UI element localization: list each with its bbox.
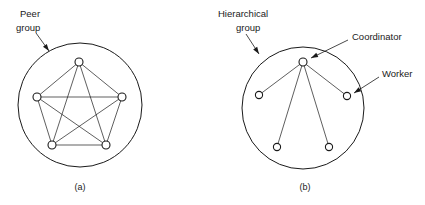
peer-group-edges — [38, 65, 121, 145]
connection-line — [304, 66, 328, 144]
worker-node-bottom-left — [273, 143, 280, 150]
connection-line — [278, 66, 302, 144]
connection-line — [40, 65, 76, 95]
coordinator-node — [299, 58, 307, 66]
worker-node-left — [255, 91, 262, 98]
hierarchical-group-edges — [262, 64, 344, 143]
coordinator-arrow-head — [311, 53, 318, 58]
peer-node-left — [33, 93, 41, 101]
panel-b-caption: (b) — [300, 182, 311, 192]
connection-line — [82, 65, 119, 95]
hierarchical-group-label-line1: Hierarchical — [218, 8, 268, 19]
worker-node-right — [343, 92, 350, 99]
connection-line — [262, 64, 300, 92]
hierarchical-group-nodes — [255, 58, 350, 151]
peer-node-right — [118, 93, 126, 101]
peer-node-bottom-right — [102, 141, 110, 149]
hierarchical-group-label-line2: group — [236, 22, 260, 33]
peer-group-label-line2: group — [16, 22, 40, 33]
coordinator-label: Coordinator — [352, 31, 402, 42]
worker-label: Worker — [382, 68, 412, 79]
connection-line — [107, 101, 120, 141]
hierarchical-group-arrow-head — [253, 47, 259, 54]
panel-b-hierarchical-group: Hierarchical group Coordinator Worker (b… — [218, 8, 412, 193]
panel-a-caption: (a) — [75, 182, 86, 192]
peer-node-top — [75, 58, 83, 66]
connection-line — [38, 101, 51, 141]
peer-node-bottom-left — [48, 141, 56, 149]
peer-group-label-line1: Peer — [20, 8, 40, 19]
peer-group-arrow-head — [43, 44, 49, 51]
worker-arrow-head — [354, 87, 361, 93]
worker-node-bottom-right — [325, 143, 332, 150]
panel-a-peer-group: Peer group (a) — [16, 8, 142, 193]
figure-container: Peer group (a) Hierarchical group Coordi… — [0, 0, 425, 205]
figure-svg: Peer group (a) Hierarchical group Coordi… — [0, 0, 425, 205]
connection-line — [306, 64, 344, 93]
